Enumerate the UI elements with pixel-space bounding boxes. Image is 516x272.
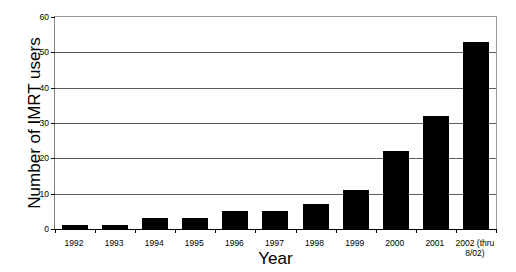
bar bbox=[423, 116, 449, 229]
plot-area: 0102030405060 bbox=[54, 16, 497, 230]
bar-slot bbox=[456, 17, 496, 229]
x-tick-mark bbox=[376, 229, 377, 233]
bar bbox=[262, 211, 288, 229]
bar bbox=[182, 218, 208, 229]
y-tick-label: 0 bbox=[44, 224, 49, 234]
bar bbox=[343, 190, 369, 229]
bar-slot bbox=[215, 17, 255, 229]
x-tick-mark bbox=[95, 229, 96, 233]
bar-slot bbox=[376, 17, 416, 229]
x-tick-mark bbox=[135, 229, 136, 233]
bar-slot bbox=[255, 17, 295, 229]
bars-layer bbox=[55, 17, 496, 229]
bar-slot bbox=[55, 17, 95, 229]
bar bbox=[383, 151, 409, 229]
x-tick-mark bbox=[456, 229, 457, 233]
y-tick-label: 40 bbox=[40, 83, 49, 93]
x-tick-mark bbox=[55, 229, 56, 233]
bar bbox=[62, 225, 88, 229]
x-tick-mark bbox=[175, 229, 176, 233]
bar-slot bbox=[296, 17, 336, 229]
x-tick-mark bbox=[336, 229, 337, 233]
bar bbox=[222, 211, 248, 229]
x-tick-mark bbox=[416, 229, 417, 233]
bar-slot bbox=[416, 17, 456, 229]
bar-chart: Number of IMRT users 0102030405060 19921… bbox=[0, 0, 516, 272]
y-tick-label: 60 bbox=[40, 12, 49, 22]
bar bbox=[142, 218, 168, 229]
bar bbox=[102, 225, 128, 229]
bar-slot bbox=[95, 17, 135, 229]
bar-slot bbox=[175, 17, 215, 229]
y-tick-label: 20 bbox=[40, 153, 49, 163]
x-tick-mark bbox=[255, 229, 256, 233]
bar bbox=[303, 204, 329, 229]
bar-slot bbox=[135, 17, 175, 229]
y-tick-label: 10 bbox=[40, 189, 49, 199]
x-tick-mark bbox=[215, 229, 216, 233]
bar bbox=[463, 42, 489, 229]
bar-slot bbox=[336, 17, 376, 229]
y-tick-label: 30 bbox=[40, 118, 49, 128]
x-tick-mark bbox=[296, 229, 297, 233]
x-tick-mark bbox=[496, 229, 497, 233]
y-tick-label: 50 bbox=[40, 47, 49, 57]
x-axis-title: Year bbox=[54, 249, 497, 269]
